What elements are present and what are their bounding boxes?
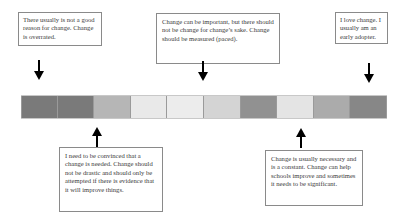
down-arrow-icon [34, 60, 44, 80]
statement-box-constant: Change is usually necessary and is a con… [265, 150, 363, 206]
up-arrow-icon [92, 127, 102, 147]
statement-text: I need to be convinced that a change is … [65, 152, 154, 193]
down-arrow-icon [198, 61, 208, 81]
continuum-scale [21, 95, 387, 119]
statement-text: There usually is not a good reason for c… [23, 16, 95, 40]
scale-segment-4 [131, 96, 168, 118]
scale-segment-10 [350, 96, 387, 118]
scale-segment-3 [94, 96, 131, 118]
down-arrow-icon [364, 63, 374, 83]
statement-text: Change is usually necessary and is a con… [271, 155, 356, 187]
scale-segment-8 [277, 96, 314, 118]
statement-text: I love change. I usually am an early ado… [340, 16, 381, 40]
up-arrow-icon [296, 128, 306, 148]
statement-box-measured: Change can be important, but there shoul… [156, 13, 280, 64]
scale-segment-1 [21, 96, 58, 118]
statement-box-early-adopter: I love change. I usually am an early ado… [335, 12, 388, 44]
scale-segment-6 [204, 96, 241, 118]
scale-segment-7 [241, 96, 278, 118]
scale-segment-5 [167, 96, 204, 118]
statement-box-cautious: I need to be convinced that a change is … [59, 147, 163, 212]
scale-segment-9 [314, 96, 351, 118]
statement-text: Change can be important, but there shoul… [162, 18, 274, 42]
scale-segment-2 [58, 96, 95, 118]
statement-box-resistant: There usually is not a good reason for c… [18, 12, 102, 46]
